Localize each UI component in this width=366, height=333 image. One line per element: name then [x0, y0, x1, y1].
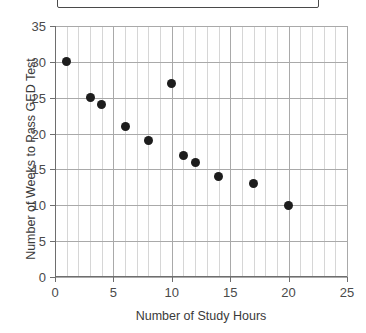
- y-axis-tick: [50, 62, 55, 63]
- y-axis-title: Number of Weeks to Pass GED Test: [24, 33, 38, 285]
- x-axis-line: [55, 276, 347, 277]
- gridline-horizontal: [55, 205, 347, 206]
- data-point: [86, 93, 95, 102]
- y-axis-tick: [50, 26, 55, 27]
- x-axis-tick-label: 25: [332, 286, 362, 299]
- y-axis-line: [55, 26, 56, 277]
- x-axis-tick-label: 20: [274, 286, 304, 299]
- x-axis-tick-label: 0: [40, 286, 70, 299]
- gridline-horizontal: [55, 241, 347, 242]
- x-axis-tick-label: 15: [215, 286, 245, 299]
- gridline-vertical: [195, 26, 196, 277]
- gridline-vertical: [265, 26, 266, 277]
- gridline-vertical: [148, 26, 149, 277]
- gridline-vertical: [230, 26, 231, 277]
- gridline-vertical: [125, 26, 126, 277]
- plot-area: [55, 26, 347, 277]
- gridline-vertical: [242, 26, 243, 277]
- data-point: [167, 79, 176, 88]
- gridline-vertical: [289, 26, 290, 277]
- gridline-vertical: [347, 26, 348, 277]
- gridline-horizontal: [55, 62, 347, 63]
- x-axis-tick: [55, 277, 56, 282]
- gridline-vertical: [312, 26, 313, 277]
- x-axis-title: Number of Study Hours: [55, 309, 347, 323]
- x-axis-tick-label: 10: [157, 286, 187, 299]
- gridline-vertical: [113, 26, 114, 277]
- data-point: [97, 100, 106, 109]
- y-axis-tick: [50, 241, 55, 242]
- gridline-vertical: [324, 26, 325, 277]
- data-point: [62, 57, 71, 66]
- y-axis-tick: [50, 134, 55, 135]
- data-point: [284, 201, 293, 210]
- gridline-vertical: [78, 26, 79, 277]
- gridline-vertical: [335, 26, 336, 277]
- y-axis-tick: [50, 98, 55, 99]
- data-point: [179, 151, 188, 160]
- x-axis-tick: [347, 277, 348, 282]
- y-axis-tick-label: 35: [16, 20, 46, 33]
- x-axis-tick: [172, 277, 173, 282]
- x-axis-tick: [289, 277, 290, 282]
- y-axis-tick: [50, 205, 55, 206]
- data-point: [121, 122, 130, 131]
- gridline-horizontal: [55, 26, 347, 27]
- gridline-horizontal: [55, 277, 347, 278]
- data-point: [214, 172, 223, 181]
- gridline-vertical: [219, 26, 220, 277]
- y-axis-tick: [50, 169, 55, 170]
- gridline-vertical: [137, 26, 138, 277]
- gridline-vertical: [172, 26, 173, 277]
- gridline-vertical: [160, 26, 161, 277]
- gridline-vertical: [207, 26, 208, 277]
- gridline-vertical: [300, 26, 301, 277]
- scatter-plot-figure: 05101520253035 0510152025 Number of Stud…: [0, 0, 366, 333]
- data-point: [249, 179, 258, 188]
- gridline-horizontal: [55, 98, 347, 99]
- data-point: [191, 158, 200, 167]
- gridline-vertical: [254, 26, 255, 277]
- x-axis-tick: [230, 277, 231, 282]
- x-axis-tick-label: 5: [98, 286, 128, 299]
- x-axis-tick: [113, 277, 114, 282]
- data-point: [144, 136, 153, 145]
- gridline-vertical: [102, 26, 103, 277]
- gridline-vertical: [277, 26, 278, 277]
- gridline-vertical: [90, 26, 91, 277]
- gridline-horizontal: [55, 134, 347, 135]
- gridline-horizontal: [55, 169, 347, 170]
- title-box: [57, 0, 319, 8]
